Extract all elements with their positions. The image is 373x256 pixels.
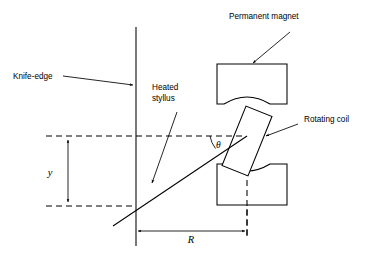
heated-stylus-label-line2: styllus [152,94,175,103]
y-dimension-label: y [47,167,53,178]
r-dimension-label: R [187,234,195,245]
recorder-geometry-diagram: Knife-edge Heated styllus Permanent magn… [0,0,373,256]
rotating-coil-label: Rotating coil [304,115,349,124]
canvas-background [0,0,373,256]
knife-edge-label: Knife-edge [13,72,53,81]
heated-stylus-label-line1: Heated [152,83,179,92]
figure-container: Knife-edge Heated styllus Permanent magn… [0,0,373,256]
lower-permanent-magnet [217,164,287,205]
permanent-magnet-label: Permanent magnet [229,12,299,21]
theta-label: θ [216,140,221,150]
